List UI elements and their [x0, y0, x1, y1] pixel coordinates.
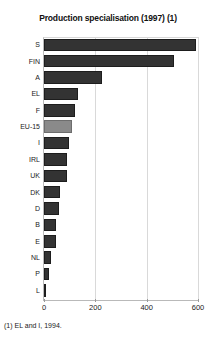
category-label-a: A [0, 74, 40, 82]
bar-row [44, 217, 198, 233]
bar-el [44, 88, 78, 101]
bar-row [44, 201, 198, 217]
xtick-mark-600 [198, 299, 199, 302]
category-label-e: E [0, 238, 40, 246]
xtick-mark-200 [95, 299, 96, 302]
category-label-irl: IRL [0, 156, 40, 164]
xtick-label-400: 400 [132, 303, 162, 312]
gridline-600 [198, 37, 199, 299]
bar-row [44, 119, 198, 135]
bar-f [44, 104, 75, 117]
bar-dk [44, 186, 60, 199]
xtick-label-600: 600 [183, 303, 213, 312]
category-label-d: D [0, 205, 40, 213]
bar-row [44, 283, 198, 299]
xtick-mark-400 [147, 299, 148, 302]
chart-figure: Production specialisation (1997) (1) SFI… [0, 0, 216, 340]
bar-row [44, 135, 198, 151]
xtick-label-0: 0 [29, 303, 59, 312]
category-label-fin: FIN [0, 58, 40, 66]
bar-nl [44, 251, 51, 264]
bar-row [44, 70, 198, 86]
category-label-i: I [0, 139, 40, 147]
footnote: (1) EL and I, 1994. [4, 322, 62, 329]
bar-row [44, 266, 198, 282]
bar-row [44, 37, 198, 53]
bar-row [44, 152, 198, 168]
bar-row [44, 103, 198, 119]
bar-row [44, 168, 198, 184]
category-label-p: P [0, 270, 40, 278]
category-label-uk: UK [0, 172, 40, 180]
bar-row [44, 53, 198, 69]
bar-uk [44, 170, 67, 183]
bars-layer [44, 37, 198, 299]
xtick-mark-0 [44, 299, 45, 302]
category-label-b: B [0, 221, 40, 229]
bar-irl [44, 153, 67, 166]
bar-i [44, 137, 69, 150]
xtick-label-200: 200 [80, 303, 110, 312]
bar-fin [44, 55, 174, 68]
category-label-nl: NL [0, 254, 40, 262]
category-label-el: EL [0, 90, 40, 98]
category-label-l: L [0, 287, 40, 295]
category-label-f: F [0, 107, 40, 115]
category-axis-labels: SFINAELFEU-15IIRLUKDKDBENLPL [0, 37, 40, 299]
bar-l [44, 284, 46, 297]
bar-s [44, 39, 196, 52]
category-label-dk: DK [0, 189, 40, 197]
bar-d [44, 202, 59, 215]
bar-p [44, 268, 49, 281]
bar-a [44, 71, 102, 84]
bar-row [44, 234, 198, 250]
bar-eu-15 [44, 120, 72, 133]
bar-b [44, 219, 56, 232]
bar-row [44, 184, 198, 200]
chart-title: Production specialisation (1997) (1) [0, 13, 216, 23]
bar-row [44, 250, 198, 266]
bar-row [44, 86, 198, 102]
category-label-eu-15: EU-15 [0, 123, 40, 131]
bar-e [44, 235, 56, 248]
category-label-s: S [0, 41, 40, 49]
